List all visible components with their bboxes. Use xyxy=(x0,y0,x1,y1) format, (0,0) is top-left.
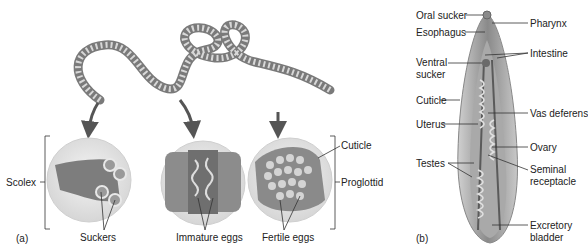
label-intestine: Intestine xyxy=(530,48,568,59)
label-uterus: Uterus xyxy=(416,119,445,130)
label-scolex: Scolex xyxy=(6,177,36,188)
label-ventral-sucker-1: Ventral xyxy=(416,57,447,68)
label-ovary: Ovary xyxy=(530,142,557,153)
label-pharynx: Pharynx xyxy=(530,18,567,29)
label-immature-eggs: Immature eggs xyxy=(176,232,243,243)
label-cuticle-a: Cuticle xyxy=(341,140,372,151)
diagram-artwork xyxy=(0,0,588,250)
panel-a-tag: (a) xyxy=(16,233,28,244)
tapeworm-illustration xyxy=(78,25,330,100)
label-proglottid: Proglottid xyxy=(341,177,383,188)
label-excretory-bladder-2: bladder xyxy=(530,232,563,243)
label-vas-deferens: Vas deferens xyxy=(530,108,588,119)
label-excretory-bladder-1: Excretory xyxy=(530,220,572,231)
panel-b-tag: (b) xyxy=(416,233,428,244)
label-testes: Testes xyxy=(416,158,445,169)
label-oral-sucker: Oral sucker xyxy=(416,10,467,21)
label-seminal-receptacle-2: receptacle xyxy=(530,176,576,187)
pointer-arrows xyxy=(89,100,278,130)
label-ventral-sucker-2: sucker xyxy=(416,69,445,80)
label-suckers: Suckers xyxy=(80,232,116,243)
label-seminal-receptacle-1: Seminal xyxy=(530,164,566,175)
scolex-circle xyxy=(47,138,131,222)
label-cuticle-b: Cuticle xyxy=(416,95,447,106)
label-esophagus: Esophagus xyxy=(416,27,466,38)
label-fertile-eggs: Fertile eggs xyxy=(262,232,314,243)
immature-proglottid-circle xyxy=(161,141,245,225)
fluke-illustration xyxy=(458,11,518,243)
fertile-proglottid-circle xyxy=(248,138,332,222)
